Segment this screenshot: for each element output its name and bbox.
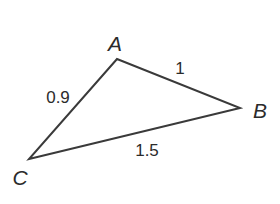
side-label-ab: 1 [175, 60, 184, 77]
triangle-svg [0, 0, 280, 204]
side-label-ac: 0.9 [46, 89, 70, 106]
vertex-label-b: B [253, 100, 267, 121]
vertex-label-a: A [108, 33, 122, 54]
side-label-bc: 1.5 [135, 142, 159, 159]
vertex-label-c: C [12, 167, 27, 188]
triangle-diagram: A B C 0.9 1 1.5 [0, 0, 280, 204]
